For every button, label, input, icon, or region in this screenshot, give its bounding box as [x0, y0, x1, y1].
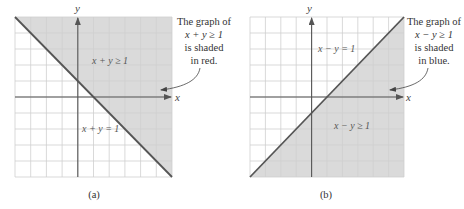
annotation-b-line-0: The graph of: [407, 16, 462, 27]
panel-a: y x x + y ≥ 1 x + y = 1 The graph of x +…: [15, 2, 232, 201]
line-label-a: x + y = 1: [81, 123, 119, 134]
panel-b: y x x − y = 1 x − y ≥ 1 The graph of x −…: [250, 2, 462, 201]
caption-a: (a): [88, 189, 100, 201]
region-label-b: x − y ≥ 1: [333, 120, 370, 131]
caption-b: (b): [320, 189, 333, 201]
region-label-a: x + y ≥ 1: [91, 55, 128, 66]
x-axis-label-b: x: [405, 91, 411, 103]
annotation-a-line-2: is shaded: [185, 42, 225, 53]
annotation-a-line-1: x + y ≥ 1: [184, 29, 223, 40]
annotation-b-line-2: is shaded: [415, 42, 455, 53]
figure: y x x + y ≥ 1 x + y = 1 The graph of x +…: [0, 0, 464, 209]
annotation-b-line-3: in blue.: [418, 55, 450, 66]
x-axis-label-a: x: [174, 91, 180, 103]
y-axis-label-a: y: [74, 2, 80, 14]
y-axis-label-b: y: [306, 2, 312, 14]
annotation-a-line-0: The graph of: [177, 16, 232, 27]
annotation-b-line-1: x − y ≥ 1: [414, 29, 453, 40]
annotation-a-line-3: in red.: [191, 55, 218, 66]
line-label-b: x − y = 1: [317, 43, 355, 54]
